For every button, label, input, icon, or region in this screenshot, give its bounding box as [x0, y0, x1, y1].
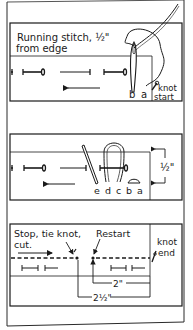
stitch-marks: [11, 165, 128, 171]
panel1-title-line1: Running stitch, ½": [17, 32, 109, 43]
point-label-b: b: [126, 185, 132, 196]
point-label-e: e: [94, 185, 100, 196]
panel-stop-restart: Stop, tie knot, cut. Restart knot end: [10, 224, 182, 306]
two-inch-dimension: 2": [93, 260, 150, 289]
half-inch-dimension: ½": [155, 149, 174, 183]
needle-icon: [131, 42, 137, 92]
point-label-a: a: [137, 185, 143, 196]
illustration-canvas: Running stitch, ½" from edge: [0, 0, 193, 330]
stop-label-line2: cut.: [14, 239, 32, 250]
panel1-title-line2: from edge: [16, 43, 67, 54]
dimension-2in: 2": [113, 279, 123, 289]
panel-running-stitch: Running stitch, ½" from edge: [10, 4, 182, 102]
knot-label: knot: [157, 237, 177, 247]
start-label: start: [154, 92, 174, 102]
point-label-a: a: [141, 89, 147, 100]
dimension-label: ½": [160, 162, 174, 173]
dimension-2-5in: 2½": [93, 293, 112, 303]
restart-label: Restart: [96, 228, 130, 239]
panel-backstitch-sequence: e d c b a ½": [10, 134, 182, 200]
needle-icon: [82, 145, 98, 184]
stop-label-line1: Stop, tie knot,: [14, 228, 81, 239]
end-label: end: [158, 248, 175, 258]
point-label-b: b: [129, 89, 135, 100]
point-label-c: c: [116, 185, 121, 196]
stitch-marks: [11, 69, 127, 75]
point-label-d: d: [105, 185, 111, 196]
